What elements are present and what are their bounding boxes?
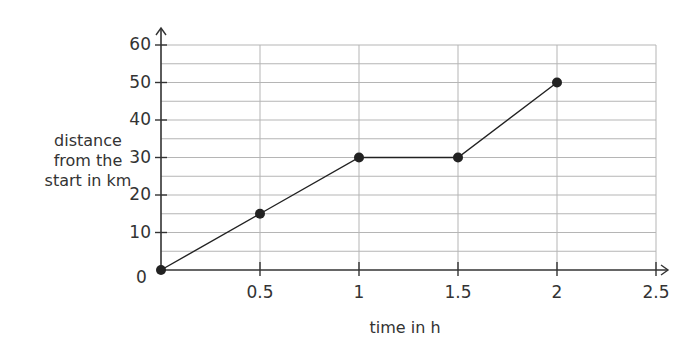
y-tick-label: 50 bbox=[111, 72, 151, 92]
x-tick-label: 1.5 bbox=[438, 282, 478, 302]
data-point bbox=[453, 153, 463, 163]
origin-label: 0 bbox=[136, 267, 147, 287]
data-point bbox=[255, 209, 265, 219]
x-tick-label: 1 bbox=[339, 282, 379, 302]
y-axis-label-line: from the bbox=[26, 151, 150, 171]
data-point bbox=[354, 153, 364, 163]
y-tick-label: 40 bbox=[111, 109, 151, 129]
x-tick-label: 2 bbox=[537, 282, 577, 302]
y-axis-label-line: start in km bbox=[26, 171, 150, 191]
data-point bbox=[552, 78, 562, 88]
y-tick-label: 10 bbox=[111, 222, 151, 242]
x-axis-label: time in h bbox=[330, 318, 480, 337]
y-axis-label: distance from the start in km bbox=[26, 131, 150, 191]
x-tick-label: 0.5 bbox=[240, 282, 280, 302]
y-axis-label-line: distance bbox=[26, 131, 150, 151]
y-tick-label: 60 bbox=[111, 34, 151, 54]
data-point bbox=[156, 265, 166, 275]
axes bbox=[155, 28, 668, 276]
x-tick-label: 2.5 bbox=[636, 282, 676, 302]
